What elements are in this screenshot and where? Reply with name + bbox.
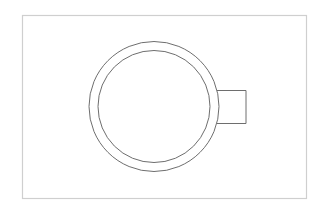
mug-drawing — [0, 0, 326, 207]
mug-inner-rim — [98, 51, 210, 163]
mug-handle — [217, 91, 246, 124]
mug-outer-rim — [89, 42, 219, 172]
diagram-canvas — [0, 0, 326, 207]
